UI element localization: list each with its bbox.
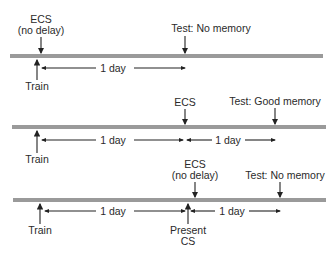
arrows-overlay bbox=[0, 0, 336, 253]
